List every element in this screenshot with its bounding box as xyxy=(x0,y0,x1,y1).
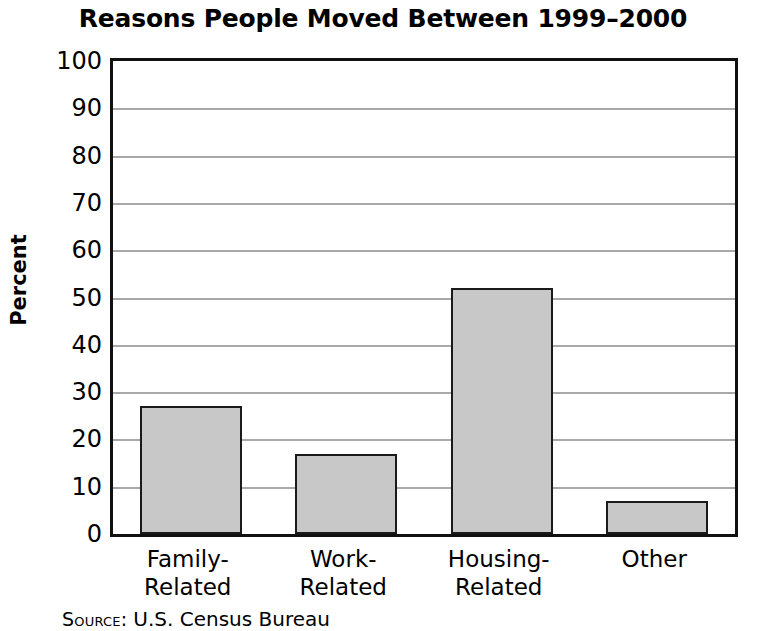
bar-chart-figure: Reasons People Moved Between 1999–2000 P… xyxy=(0,0,766,631)
x-axis-tick-label: Other xyxy=(577,545,733,573)
gridline xyxy=(113,392,735,394)
x-axis-tick-label: Housing-Related xyxy=(421,545,577,601)
plot-inner xyxy=(113,61,735,534)
y-axis-tick-label: 40 xyxy=(16,333,102,357)
y-axis-tick-label: 30 xyxy=(16,380,102,404)
x-axis-tick-labels: Family-RelatedWork-RelatedHousing-Relate… xyxy=(110,545,738,607)
source-note: Source: U.S. Census Bureau xyxy=(62,607,330,631)
x-axis-tick-label-line: Related xyxy=(266,573,422,601)
gridline xyxy=(113,156,735,158)
x-axis-tick-label: Family-Related xyxy=(110,545,266,601)
chart-title: Reasons People Moved Between 1999–2000 xyxy=(0,4,766,33)
y-axis-tick-label: 10 xyxy=(16,475,102,499)
bar xyxy=(451,288,553,534)
source-label: Source: xyxy=(62,608,127,630)
gridline xyxy=(113,250,735,252)
gridline xyxy=(113,345,735,347)
bar xyxy=(295,454,397,534)
bar xyxy=(140,406,242,534)
bar xyxy=(606,501,708,534)
x-axis-tick-label-line: Related xyxy=(421,573,577,601)
source-value: U.S. Census Bureau xyxy=(133,607,330,631)
y-axis-tick-label: 50 xyxy=(16,286,102,310)
x-axis-tick-label-line: Other xyxy=(577,545,733,573)
y-axis-tick-label: 100 xyxy=(16,49,102,73)
y-axis-tick-label: 70 xyxy=(16,191,102,215)
gridline xyxy=(113,298,735,300)
x-axis-tick-label-line: Family- xyxy=(110,545,266,573)
x-axis-tick-label-line: Housing- xyxy=(421,545,577,573)
x-axis-tick-label: Work-Related xyxy=(266,545,422,601)
y-axis-tick-labels: 1009080706050403020100 xyxy=(8,58,102,537)
gridline xyxy=(113,108,735,110)
x-axis-tick-label-line: Work- xyxy=(266,545,422,573)
y-axis-tick-label: 20 xyxy=(16,427,102,451)
y-axis-tick-label: 60 xyxy=(16,238,102,262)
y-axis-tick-label: 90 xyxy=(16,96,102,120)
x-axis-tick-label-line: Related xyxy=(110,573,266,601)
plot-area xyxy=(110,58,738,537)
y-axis-tick-label: 0 xyxy=(16,522,102,546)
y-axis-tick-label: 80 xyxy=(16,144,102,168)
gridline xyxy=(113,203,735,205)
